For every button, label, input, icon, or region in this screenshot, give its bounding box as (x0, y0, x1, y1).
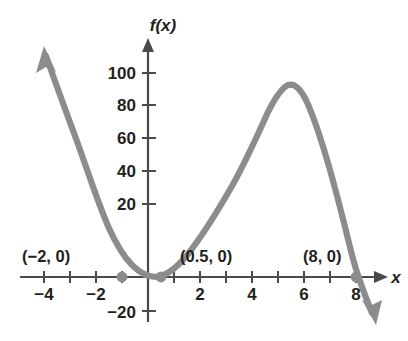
x-tick-label-6: 6 (299, 285, 308, 304)
root-dot-half (156, 272, 167, 283)
point-label-root-neg2: (−2, 0) (22, 247, 70, 265)
point-label-root-half: (0.5, 0) (180, 247, 232, 265)
y-tick-label-80: 80 (117, 96, 136, 115)
y-tick-label-40: 40 (117, 162, 136, 181)
y-tick-label-60: 60 (117, 129, 136, 148)
root-dot-neg2 (117, 272, 128, 283)
x-axis-group (20, 271, 388, 283)
x-tick-label--2: −2 (86, 285, 105, 304)
x-axis-label: x (390, 268, 402, 287)
x-tick-label-8: 8 (351, 285, 360, 304)
point-label-root-eight: (8, 0) (303, 247, 342, 265)
y-axis-label: f(x) (150, 16, 177, 35)
left-branch-arrow-icon (36, 46, 56, 73)
root-dot-eight (351, 272, 362, 283)
y-tick-label--20: −20 (107, 303, 136, 322)
y-tick-label-20: 20 (117, 195, 136, 214)
x-axis-arrow-icon (374, 271, 388, 283)
x-tick-label-4: 4 (247, 285, 257, 304)
x-tick-label-2: 2 (195, 285, 204, 304)
x-tick-label--4: −4 (34, 285, 54, 304)
function-curve-group (36, 46, 382, 325)
y-axis-arrow-icon (142, 38, 154, 52)
y-tick-label-100: 100 (108, 64, 136, 83)
cubic-function-plot: 100 80 60 40 20 −20 −4 −2 2 4 6 8 f(x) x… (0, 0, 408, 341)
chart-figure: 100 80 60 40 20 −20 −4 −2 2 4 6 8 f(x) x… (0, 0, 408, 341)
cubic-curve (46, 56, 372, 313)
right-branch-arrow-icon (362, 300, 382, 325)
